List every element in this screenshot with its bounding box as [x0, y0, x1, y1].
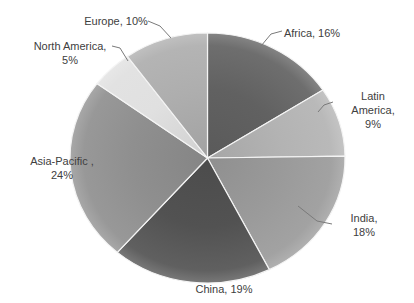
pie-label-asia-pacific: Asia-Pacific , 24% [30, 154, 94, 182]
pie-label-india: India, 18% [339, 211, 389, 239]
pie-label-china: China, 19% [196, 282, 253, 296]
pie-label-africa: Africa, 16% [284, 26, 340, 40]
pie-label-latin-america: Latin America, 9% [351, 89, 394, 131]
pie-label-north-america: North America, 5% [34, 39, 107, 67]
leader-line-europe [148, 21, 171, 38]
pie-label-europe: Europe, 10% [84, 14, 148, 28]
pie-chart-figure: Africa, 16% Latin America, 9% India, 18%… [0, 0, 414, 303]
